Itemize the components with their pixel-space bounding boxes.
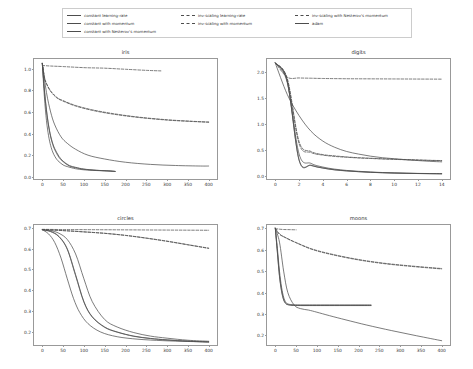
x-tick-mark-circles: [126, 345, 127, 347]
legend-entry-constant-with-momentum: constant with momentum: [67, 20, 156, 28]
x-tick-mark-moons: [379, 345, 380, 347]
x-tick-mark-iris: [167, 179, 168, 181]
y-tick-mark-digits: [265, 176, 267, 177]
y-tick-label-digits: 2.0: [257, 69, 264, 74]
x-tick-label-circles: 350: [184, 348, 192, 353]
x-tick-mark-circles: [63, 345, 64, 347]
y-tick-label-moons: 0.7: [257, 226, 264, 231]
x-tick-mark-digits: [370, 179, 371, 181]
x-tick-label-circles: 200: [121, 348, 129, 353]
series-line-inv-scaling-with-momentum: [275, 228, 441, 269]
y-tick-mark-iris: [32, 134, 34, 135]
series-line-constant-learning-rate: [42, 63, 115, 171]
x-tick-label-iris: 350: [184, 182, 192, 187]
legend-line-swatch-dashed-icon: [295, 15, 309, 17]
x-tick-label-iris: 150: [101, 182, 109, 187]
series-line-inv-scaling-learning-rate: [42, 65, 161, 70]
x-tick-mark-digits: [442, 179, 443, 181]
series-line-constant-learning-rate: [42, 230, 208, 342]
series-line-inv-scaling-learning-rate: [42, 229, 208, 230]
legend-label: constant with momentum: [84, 20, 134, 28]
y-tick-label-digits: 1.0: [257, 121, 264, 126]
x-tick-label-moons: 150: [334, 348, 342, 353]
legend-label: constant with Nesterov's momentum: [84, 28, 156, 36]
x-tick-label-moons: 0: [274, 348, 277, 353]
y-tick-mark-iris: [32, 112, 34, 113]
series-line-constant-learning-rate: [275, 63, 441, 173]
y-tick-label-circles: 0.6: [24, 246, 31, 251]
series-line-inv-scaling-learning-rate: [275, 229, 296, 230]
x-tick-label-iris: 0: [41, 182, 44, 187]
x-tick-label-moons: 400: [437, 348, 445, 353]
legend-label: inv-scaling with Nesterov's momentum: [312, 12, 388, 20]
x-tick-mark-digits: [299, 179, 300, 181]
x-tick-label-circles: 150: [101, 348, 109, 353]
legend-column-2: inv-scaling learning-rate inv-scaling wi…: [181, 12, 252, 28]
x-tick-mark-circles: [209, 345, 210, 347]
x-tick-mark-moons: [317, 345, 318, 347]
legend-entry-inv-scaling-learning-rate: inv-scaling learning-rate: [181, 12, 252, 20]
x-tick-label-iris: 300: [163, 182, 171, 187]
legend-label: adam: [312, 20, 323, 28]
x-tick-label-moons: 100: [313, 348, 321, 353]
x-tick-mark-iris: [209, 179, 210, 181]
y-tick-mark-iris: [32, 90, 34, 91]
plot-area-iris: 0.00.20.40.60.81.00501001502002503003504…: [33, 58, 218, 180]
x-tick-mark-moons: [338, 345, 339, 347]
y-tick-label-circles: 0.3: [24, 308, 31, 313]
y-tick-label-digits: 0.5: [257, 147, 264, 152]
y-tick-mark-moons: [265, 271, 267, 272]
y-tick-label-moons: 0.2: [257, 333, 264, 338]
y-tick-mark-circles: [32, 228, 34, 229]
legend-line-swatch-solid-icon: [295, 23, 309, 24]
x-tick-label-iris: 100: [80, 182, 88, 187]
series-line-inv-scaling-with-nesterov-s-momentum: [42, 63, 208, 122]
x-tick-mark-circles: [84, 345, 85, 347]
x-tick-label-circles: 250: [142, 348, 150, 353]
y-tick-mark-digits: [265, 150, 267, 151]
x-tick-mark-moons: [359, 345, 360, 347]
y-tick-mark-circles: [32, 290, 34, 291]
x-tick-label-digits: 2: [298, 182, 301, 187]
x-tick-label-moons: 50: [293, 348, 299, 353]
y-tick-mark-moons: [265, 335, 267, 336]
series-line-inv-scaling-with-momentum: [42, 230, 208, 249]
x-tick-mark-circles: [146, 345, 147, 347]
y-tick-mark-circles: [32, 332, 34, 333]
series-line-constant-with-momentum: [42, 63, 115, 171]
legend-entry-constant-learning-rate: constant learning-rate: [67, 12, 156, 20]
y-tick-label-digits: 1.5: [257, 95, 264, 100]
x-tick-label-digits: 0: [274, 182, 277, 187]
y-tick-mark-iris: [32, 177, 34, 178]
plot-lines-circles: [34, 225, 217, 345]
y-tick-label-iris: 0.2: [24, 153, 31, 158]
y-tick-mark-iris: [32, 69, 34, 70]
y-tick-label-circles: 0.4: [24, 288, 31, 293]
x-tick-mark-moons: [421, 345, 422, 347]
legend-label: constant learning-rate: [84, 12, 127, 20]
x-tick-label-circles: 400: [204, 348, 212, 353]
y-tick-mark-circles: [32, 249, 34, 250]
y-tick-mark-digits: [265, 124, 267, 125]
y-tick-mark-iris: [32, 155, 34, 156]
subplot-title-moons: moons: [266, 215, 451, 221]
y-tick-label-circles: 0.2: [24, 329, 31, 334]
subplot-digits: digits 0.00.51.01.52.002468101214: [266, 58, 451, 180]
x-tick-mark-iris: [188, 179, 189, 181]
x-tick-label-circles: 0: [41, 348, 44, 353]
subplot-iris: iris 0.00.20.40.60.81.005010015020025030…: [33, 58, 218, 180]
x-tick-mark-digits: [323, 179, 324, 181]
plot-lines-iris: [34, 59, 217, 179]
legend-line-swatch-solid-icon: [67, 23, 81, 24]
y-tick-label-iris: 0.0: [24, 174, 31, 179]
x-tick-mark-iris: [126, 179, 127, 181]
y-tick-mark-circles: [32, 311, 34, 312]
y-tick-label-digits: 0.0: [257, 173, 264, 178]
legend-column-3: inv-scaling with Nesterov's momentum ada…: [295, 12, 388, 28]
y-tick-label-circles: 0.5: [24, 267, 31, 272]
x-tick-mark-moons: [296, 345, 297, 347]
legend-entry-inv-scaling-with-nesterov-momentum: inv-scaling with Nesterov's momentum: [295, 12, 388, 20]
y-tick-label-moons: 0.6: [257, 247, 264, 252]
plot-area-circles: 0.20.30.40.50.60.70501001502002503003504…: [33, 224, 218, 346]
legend-line-swatch-solid-icon: [67, 31, 81, 32]
